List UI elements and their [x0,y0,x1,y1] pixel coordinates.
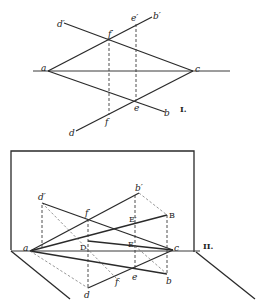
label-d: d [69,128,75,138]
label-d-prime: d′ [57,19,65,29]
label-a: a [41,63,46,73]
horizontal-plane-right-edge [196,252,255,299]
label-b: b [164,108,170,118]
label-D: D [80,243,86,252]
line-c-d [88,250,173,288]
label-f-prime: f′ [107,29,113,39]
label-e: e [134,103,139,113]
label-b: b [166,276,172,286]
label-a: a [23,243,28,253]
figure-1-label: I. [180,104,187,114]
label-E-prime: E′ [129,215,137,224]
label-f-prime: f′ [84,208,90,218]
line-d-prime-c [64,23,193,71]
figure-1: d′ f′ e′ b′ a c e b f d I. [33,11,230,138]
dashed-b-prime-B [139,193,167,215]
label-f: f [114,277,120,287]
descriptive-geometry-diagram: d′ f′ e′ b′ a c e b f d I. d′ [0,0,261,300]
line-a-b [48,71,165,112]
label-E: E [128,240,134,249]
figure-2: d′ b′ f′ B E′ D E a c e b f d II. [11,151,255,300]
label-c: c [195,64,200,74]
label-b-prime: b′ [135,183,143,193]
label-B: B [169,211,175,220]
figure-2-label: II. [203,241,213,251]
label-c: c [174,243,179,253]
horizontal-plane-left-edge [11,251,70,299]
label-e-prime: e′ [131,13,138,23]
dashed-a-d [30,251,88,288]
line-a-B [30,215,167,251]
label-d-prime: d′ [38,192,46,202]
label-d: d [84,290,90,300]
label-f: f [104,117,110,127]
line-c-d [76,71,193,131]
label-e: e [132,272,137,282]
label-b-prime: b′ [153,11,161,21]
